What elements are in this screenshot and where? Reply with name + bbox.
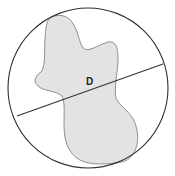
irregular-shape (35, 15, 137, 164)
diameter-label: D (86, 76, 93, 87)
diagram-svg: D (0, 0, 175, 176)
diagram-canvas: D (0, 0, 175, 176)
